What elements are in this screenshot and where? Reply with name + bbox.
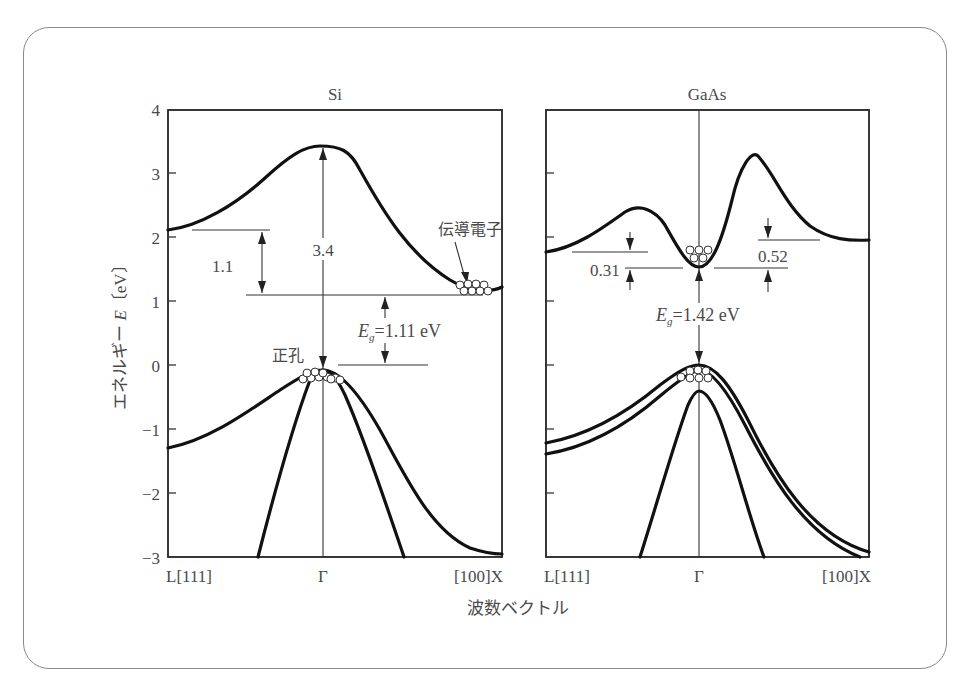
si-holes-label: 正孔: [272, 347, 304, 364]
gaas-label-0-52: 0.52: [758, 247, 788, 266]
si-xtick-gamma: Γ: [318, 567, 328, 586]
svg-text:−2: −2: [142, 485, 160, 504]
svg-text:1: 1: [152, 293, 161, 312]
gaas-electrons: [686, 246, 712, 262]
y-axis-label: エネルギーE〔eV〕: [111, 256, 130, 409]
band-structure-figure: エネルギーE〔eV〕 4 3 2 1 0 −1 −2 −3 Si: [0, 0, 971, 693]
si-panel: Si 1.1 3.4: [166, 85, 503, 586]
gaas-plot-box: [546, 110, 869, 557]
gaas-xtick-L: L[111]: [544, 567, 590, 586]
gaas-title: GaAs: [688, 85, 727, 104]
si-xtick-X: [100]X: [454, 567, 503, 586]
y-tick-labels: 4 3 2 1 0 −1 −2 −3: [142, 101, 161, 568]
gaas-label-0-31: 0.31: [590, 261, 620, 280]
svg-text:−3: −3: [142, 549, 160, 568]
svg-text:エネルギーE〔eV〕: エネルギーE〔eV〕: [111, 256, 130, 409]
x-axis-label: 波数ベクトル: [467, 599, 569, 618]
svg-text:2: 2: [152, 229, 161, 248]
svg-text:3: 3: [152, 165, 161, 184]
si-valence-band-2: [258, 370, 404, 557]
gaas-panel: GaAs 0.31 0.52: [544, 85, 871, 586]
svg-text:4: 4: [152, 101, 161, 120]
si-xtick-L: L[111]: [166, 567, 212, 586]
gaas-valence-band-heavy: [546, 365, 869, 552]
gaas-valence-band-light: [546, 370, 860, 557]
svg-text:−1: −1: [142, 421, 160, 440]
gaas-y-ticks: [546, 173, 554, 493]
si-label-1-1: 1.1: [212, 257, 233, 276]
si-title: Si: [328, 85, 342, 104]
si-electrons: [456, 280, 492, 295]
gaas-xtick-gamma: Γ: [694, 567, 704, 586]
svg-text:0: 0: [152, 357, 161, 376]
si-label-3-4: 3.4: [312, 241, 334, 260]
si-band-gap-label: Eg=1.11 eV: [357, 321, 441, 343]
si-valence-band-1: [168, 370, 502, 554]
si-holes: [299, 368, 344, 384]
gaas-xtick-X: [100]X: [822, 567, 871, 586]
si-electrons-label: 伝導電子: [438, 220, 502, 238]
si-plot-box: [168, 110, 502, 557]
